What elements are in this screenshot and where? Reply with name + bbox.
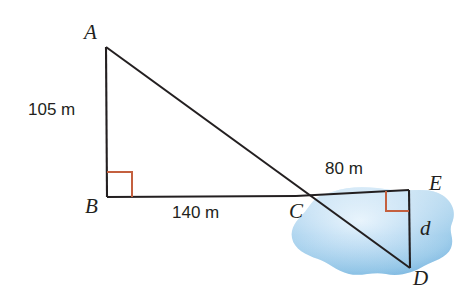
segment-AB <box>106 47 107 197</box>
measurement-label-ED: d <box>420 218 431 239</box>
segment-AD <box>106 47 410 268</box>
vertex-label-C: C <box>289 201 303 222</box>
segment-BC <box>107 196 296 197</box>
vertex-label-A: A <box>84 22 97 43</box>
measurement-label-CE: 80 m <box>325 160 363 177</box>
measurement-label-BC: 140 m <box>172 204 219 221</box>
vertex-label-D: D <box>413 268 428 289</box>
right-angle-marker-B <box>107 172 132 197</box>
geometry-figure: A B C D E 105 m 140 m 80 m d <box>0 0 464 305</box>
vertex-label-B: B <box>85 196 98 217</box>
vertex-label-E: E <box>429 173 442 194</box>
geometry-canvas <box>0 0 464 305</box>
measurement-label-AB: 105 m <box>28 101 75 118</box>
segment-ED <box>409 190 410 268</box>
